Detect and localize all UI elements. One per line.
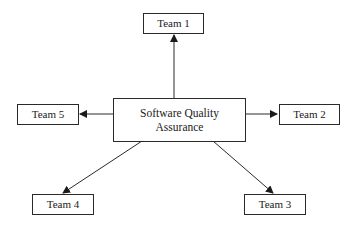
edge-to-team3 <box>213 141 273 193</box>
node-team1: Team 1 <box>143 13 204 34</box>
center-label-line1: Software Quality <box>140 106 219 120</box>
diagram-canvas: Team 1 Software Quality Assurance Team 5… <box>0 0 351 229</box>
center-label-line2: Assurance <box>156 120 204 134</box>
node-team3: Team 3 <box>244 194 306 215</box>
node-team5-label: Team 5 <box>32 108 65 121</box>
node-team2: Team 2 <box>279 104 340 125</box>
node-team5: Team 5 <box>17 104 79 125</box>
node-team1-label: Team 1 <box>157 17 190 30</box>
edge-to-team4 <box>63 141 142 193</box>
node-team4-label: Team 4 <box>47 198 80 211</box>
node-software-quality-assurance: Software Quality Assurance <box>113 98 246 142</box>
node-team3-label: Team 3 <box>259 198 292 211</box>
node-team4: Team 4 <box>32 194 94 215</box>
node-team2-label: Team 2 <box>293 108 326 121</box>
